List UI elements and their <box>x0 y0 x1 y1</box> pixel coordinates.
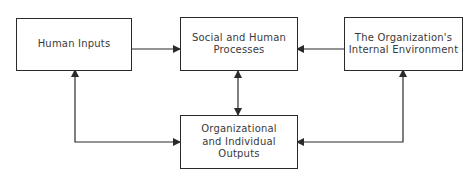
node-internal-environment: The Organization's Internal Environment <box>344 17 463 71</box>
node-outputs-label: Organizational and Individual Outputs <box>201 123 277 161</box>
node-human-inputs: Human Inputs <box>16 18 132 71</box>
node-human-inputs-label: Human Inputs <box>38 38 111 51</box>
node-social-processes-label: Social and Human Processes <box>192 32 286 57</box>
edge-environment-outputs <box>297 100 403 142</box>
node-outputs: Organizational and Individual Outputs <box>180 115 298 169</box>
node-internal-environment-label: The Organization's Internal Environment <box>349 32 459 57</box>
edge-inputs-outputs <box>75 100 180 142</box>
node-social-processes: Social and Human Processes <box>180 17 298 71</box>
